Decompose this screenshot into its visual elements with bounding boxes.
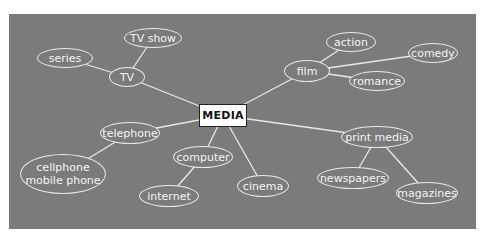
node-label: film [297,65,318,78]
node-label: romance [353,75,401,88]
node-label: action [334,36,368,49]
node-label: computer [176,151,229,164]
node-telephone: telephone [100,122,160,144]
node-print-media: print media [341,126,413,148]
node-label: telephone [102,127,157,140]
node-magazines: magazines [396,182,458,204]
node-label: cinema [243,180,283,193]
node-film: film [284,60,330,82]
node-label: cellphonemobile phone [25,161,100,187]
node-comedy: comedy [408,43,458,63]
node-label: internet [147,190,191,203]
root-label: MEDIA [202,109,244,122]
node-series: series [37,48,93,68]
node-label: TV show [130,32,176,45]
node-label: magazines [397,187,456,200]
node-internet: internet [139,185,199,207]
node-action: action [326,32,376,52]
node-label: newspapers [320,172,386,185]
node-label: TV [120,71,134,84]
node-tv: TV [109,67,145,87]
node-label: series [49,52,82,65]
node-cellphone: cellphonemobile phone [20,154,106,194]
node-newspapers: newspapers [317,167,389,189]
node-tv-show: TV show [124,28,182,48]
root-node-media: MEDIA [199,104,247,127]
node-label: comedy [411,47,455,60]
node-computer: computer [173,146,233,168]
node-label: print media [345,131,409,144]
node-cinema: cinema [237,175,289,197]
node-romance: romance [349,71,405,91]
